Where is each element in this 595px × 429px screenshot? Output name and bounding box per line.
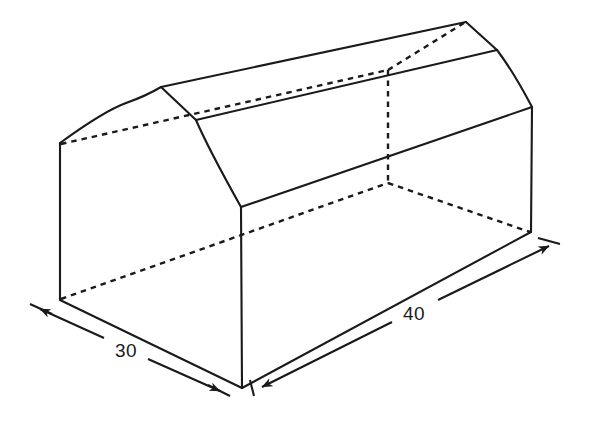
edge-roof-left-upper-slope bbox=[126, 87, 161, 103]
figure-canvas: 30 40 bbox=[0, 0, 595, 429]
dimension-length-label: 40 bbox=[403, 303, 425, 324]
edge-roof-break-line bbox=[196, 50, 497, 120]
hidden-edge-floor-back-left bbox=[61, 183, 388, 299]
dimension-depth: 30 bbox=[30, 304, 230, 396]
dimension-length-line-left bbox=[262, 322, 392, 387]
dimension-depth-line-left bbox=[40, 309, 104, 338]
hidden-edge-back-gable-left bbox=[61, 70, 388, 144]
dimension-length-tick-end bbox=[538, 238, 560, 244]
hidden-edges-group bbox=[61, 23, 530, 299]
dimension-depth-line-right bbox=[148, 359, 220, 391]
hidden-edge-floor-back-right bbox=[388, 183, 530, 232]
edge-eave-line bbox=[241, 107, 532, 207]
edge-right-gable-upper bbox=[466, 22, 497, 50]
dimension-length: 40 bbox=[250, 238, 560, 396]
solid-edges-group bbox=[60, 22, 532, 388]
dimension-depth-label: 30 bbox=[115, 340, 137, 361]
edge-front-center-vertical bbox=[241, 207, 242, 388]
edge-ridge-top bbox=[161, 22, 466, 87]
edge-front-gable-lower bbox=[196, 120, 241, 207]
geometry-figure: 30 40 bbox=[0, 0, 595, 429]
edge-base-front-right bbox=[242, 232, 531, 388]
edge-right-vertical bbox=[531, 107, 532, 232]
edge-front-gable-upper bbox=[161, 87, 196, 120]
edge-right-gable-lower bbox=[497, 50, 532, 107]
edge-base-front-left bbox=[60, 300, 242, 388]
